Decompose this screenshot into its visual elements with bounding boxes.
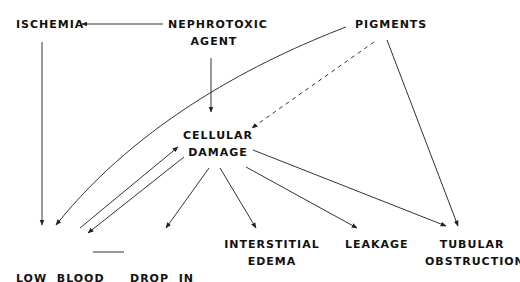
node-ischemia: ISCHEMIA — [16, 16, 84, 33]
node-leakage: LEAKAGE — [345, 236, 409, 253]
node-lowblood-label-1: LOW BLOOD — [16, 270, 105, 282]
node-drop-in-gfr: DROP IN GFR — [130, 236, 194, 282]
node-tubular-label-1: TUBULAR — [425, 236, 519, 253]
node-tubular-label-2: OBSTRUCTION — [425, 253, 519, 270]
node-tubular-obstruction: TUBULAR OBSTRUCTION — [425, 236, 519, 270]
diagram-canvas: ISCHEMIA NEPHROTOXIC AGENT PIGMENTS CELL… — [0, 0, 520, 282]
node-nephrotoxic-label-2: AGENT — [168, 33, 260, 50]
node-gfr-label-1: DROP IN — [130, 270, 194, 282]
edge-pigments-to-cellular-dashed — [252, 42, 374, 128]
node-ischemia-label: ISCHEMIA — [16, 16, 84, 33]
node-cellular-label-1: CELLULAR — [180, 127, 256, 144]
node-edema-label-1: INTERSTITIAL — [222, 236, 322, 253]
edge-cellular-to-tubular — [253, 150, 446, 226]
edge-lowblood-to-cellular — [80, 147, 178, 228]
node-edema-label-2: EDEMA — [222, 253, 322, 270]
edge-cellular-to-leakage — [246, 167, 357, 228]
edge-pigments-to-lowblood — [56, 27, 346, 225]
node-cellular-damage: CELLULAR DAMAGE — [180, 127, 256, 161]
node-pigments: PIGMENTS — [355, 16, 427, 33]
edge-cellular-to-lowblood — [88, 157, 184, 233]
node-low-blood-flow-rate: LOW BLOOD FLOW RATE — [16, 236, 105, 282]
node-interstitial-edema: INTERSTITIAL EDEMA — [222, 236, 322, 270]
edge-cellular-to-edema — [220, 168, 256, 228]
node-cellular-label-2: DAMAGE — [180, 144, 256, 161]
edge-pigments-to-tubular — [387, 40, 458, 226]
edge-cellular-to-gfr — [166, 168, 209, 228]
node-nephrotoxic-agent: NEPHROTOXIC AGENT — [168, 16, 260, 50]
node-leakage-label: LEAKAGE — [345, 236, 409, 253]
node-pigments-label: PIGMENTS — [355, 16, 427, 33]
node-nephrotoxic-label-1: NEPHROTOXIC — [168, 16, 260, 33]
